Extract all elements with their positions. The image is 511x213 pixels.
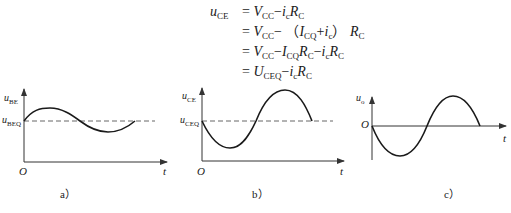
waveform-diagrams	[0, 0, 511, 213]
panel-b-x-label: t	[340, 165, 343, 177]
panel-a-origin-label: O	[19, 165, 27, 177]
panel-a	[24, 89, 167, 162]
panel-c	[372, 96, 506, 160]
panel-b-y-label: uCE	[182, 90, 196, 104]
panel-a-y-label: uBE	[4, 92, 18, 106]
panel-c-caption: c）	[444, 185, 460, 201]
panel-b-wave	[202, 90, 312, 148]
panel-c-x-label: t	[503, 132, 506, 144]
panel-a-caption: a）	[60, 185, 76, 201]
panel-c-origin-label: O	[361, 118, 369, 130]
panel-a-baseline-label: uBEQ	[2, 114, 21, 128]
panel-a-wave	[24, 108, 135, 132]
panel-b-origin-label: O	[197, 165, 205, 177]
panel-b-caption: b）	[252, 185, 269, 201]
panel-b	[202, 88, 344, 161]
panel-a-x-label: t	[163, 165, 166, 177]
panel-c-y-label: uo	[356, 92, 365, 106]
panel-b-baseline-label: uCEQ	[180, 114, 199, 128]
